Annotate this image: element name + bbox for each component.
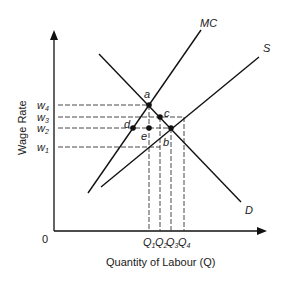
labour-market-diagram: MC S D a c d e b w4 w3 w2 w1 Q1 Q2 Q3 Q4…	[0, 0, 289, 283]
point-b	[168, 125, 174, 131]
point-c	[157, 114, 163, 120]
wage-labels: w4 w3 w2 w1	[37, 99, 49, 154]
y-axis-arrow-icon	[50, 30, 58, 40]
x-axis-arrow-icon	[257, 227, 267, 235]
d-label: D	[245, 204, 253, 216]
point-b-label: b	[163, 136, 169, 148]
origin-label: 0	[42, 233, 48, 245]
s-label: S	[263, 42, 271, 54]
point-d-label: d	[124, 118, 131, 130]
x-axis-label: Quantity of Labour (Q)	[106, 256, 215, 268]
svg-text:Q4: Q4	[178, 236, 191, 249]
point-c-label: c	[164, 107, 170, 119]
curves	[88, 30, 259, 202]
y-axis-label: Wage Rate	[16, 100, 28, 155]
quantity-labels: Q1 Q2 Q3 Q4	[143, 236, 191, 249]
svg-text:Q1: Q1	[143, 236, 156, 249]
point-a-label: a	[144, 88, 150, 100]
mc-label: MC	[200, 17, 217, 29]
axes	[54, 36, 262, 231]
point-e-label: e	[141, 130, 147, 142]
svg-text:Q3: Q3	[166, 236, 179, 249]
point-a	[146, 102, 152, 108]
point-d	[130, 125, 136, 131]
svg-text:w1: w1	[37, 141, 49, 154]
